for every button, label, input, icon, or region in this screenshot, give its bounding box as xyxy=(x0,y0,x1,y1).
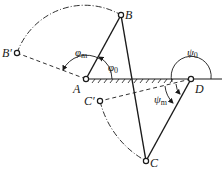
joint-D xyxy=(188,76,193,81)
label-D: D xyxy=(194,82,204,96)
psi-m-arc-inner xyxy=(176,84,180,94)
coupler-BC xyxy=(121,15,146,161)
label-psi-0: ψ0 xyxy=(187,46,198,60)
joint-C-prime xyxy=(97,98,102,103)
linkage-diagram: B B′ A C′ C D φm φ0 ψ0 ψm xyxy=(0,0,224,173)
rocker-path-arc xyxy=(100,101,146,161)
label-A: A xyxy=(72,82,81,96)
joint-B xyxy=(118,12,123,17)
label-B: B xyxy=(125,8,133,22)
joint-A xyxy=(83,76,88,81)
label-B-prime: B′ xyxy=(2,46,12,60)
rocker-DC xyxy=(146,79,191,161)
crank-path-arc xyxy=(17,5,121,53)
label-phi-m: φm xyxy=(75,46,88,60)
joint-B-prime xyxy=(14,50,19,55)
label-C: C xyxy=(150,156,159,170)
label-psi-m: ψm xyxy=(154,93,168,107)
label-phi-0: φ0 xyxy=(108,61,118,75)
joint-C xyxy=(143,158,148,163)
label-C-prime: C′ xyxy=(84,94,95,108)
